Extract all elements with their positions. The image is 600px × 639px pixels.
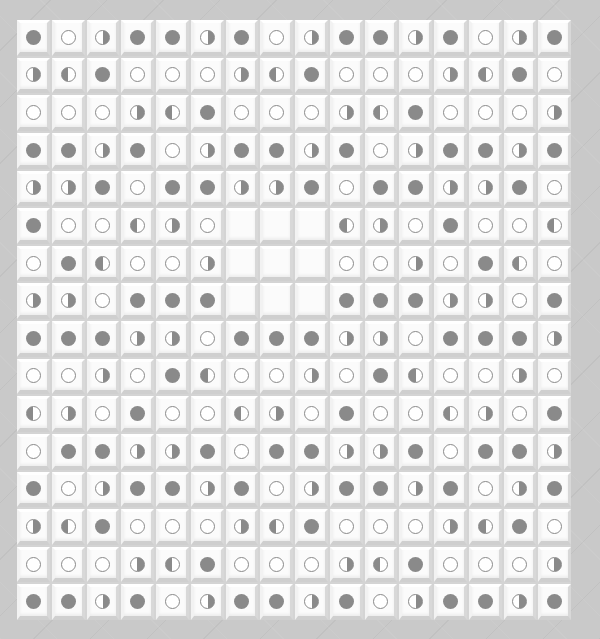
board-tile[interactable] — [156, 20, 189, 56]
board-tile[interactable] — [434, 509, 467, 545]
board-tile[interactable] — [295, 208, 328, 244]
board-tile[interactable] — [538, 472, 571, 508]
board-tile[interactable] — [87, 133, 120, 169]
board-tile[interactable] — [469, 171, 502, 207]
board-tile[interactable] — [330, 472, 363, 508]
board-tile[interactable] — [17, 95, 50, 131]
board-tile[interactable] — [330, 208, 363, 244]
board-tile[interactable] — [469, 246, 502, 282]
board-tile[interactable] — [538, 359, 571, 395]
board-tile[interactable] — [295, 396, 328, 432]
board-tile[interactable] — [295, 509, 328, 545]
board-tile[interactable] — [121, 283, 154, 319]
board-tile[interactable] — [226, 283, 259, 319]
board-tile[interactable] — [330, 171, 363, 207]
board-tile[interactable] — [156, 171, 189, 207]
board-tile[interactable] — [52, 58, 85, 94]
board-tile[interactable] — [226, 20, 259, 56]
board-tile[interactable] — [121, 208, 154, 244]
board-tile[interactable] — [365, 396, 398, 432]
board-tile[interactable] — [156, 133, 189, 169]
board-tile[interactable] — [434, 472, 467, 508]
board-tile[interactable] — [365, 321, 398, 357]
board-tile[interactable] — [191, 20, 224, 56]
board-tile[interactable] — [226, 584, 259, 620]
board-tile[interactable] — [156, 58, 189, 94]
board-tile[interactable] — [191, 246, 224, 282]
board-tile[interactable] — [226, 171, 259, 207]
board-tile[interactable] — [434, 283, 467, 319]
board-tile[interactable] — [365, 509, 398, 545]
board-tile[interactable] — [87, 283, 120, 319]
board-tile[interactable] — [87, 95, 120, 131]
board-tile[interactable] — [226, 359, 259, 395]
board-tile[interactable] — [260, 584, 293, 620]
board-tile[interactable] — [295, 283, 328, 319]
board-tile[interactable] — [156, 584, 189, 620]
board-tile[interactable] — [365, 472, 398, 508]
board-tile[interactable] — [295, 133, 328, 169]
board-tile[interactable] — [365, 359, 398, 395]
board-tile[interactable] — [469, 58, 502, 94]
board-tile[interactable] — [330, 547, 363, 583]
board-tile[interactable] — [469, 434, 502, 470]
board-tile[interactable] — [156, 283, 189, 319]
board-tile[interactable] — [504, 472, 537, 508]
board-tile[interactable] — [434, 95, 467, 131]
board-tile[interactable] — [121, 547, 154, 583]
board-tile[interactable] — [17, 547, 50, 583]
board-tile[interactable] — [156, 321, 189, 357]
board-tile[interactable] — [87, 321, 120, 357]
board-tile[interactable] — [399, 509, 432, 545]
board-tile[interactable] — [87, 20, 120, 56]
board-tile[interactable] — [469, 133, 502, 169]
board-tile[interactable] — [191, 359, 224, 395]
board-tile[interactable] — [156, 95, 189, 131]
board-tile[interactable] — [434, 246, 467, 282]
board-tile[interactable] — [260, 472, 293, 508]
board-tile[interactable] — [260, 434, 293, 470]
board-tile[interactable] — [538, 434, 571, 470]
board-tile[interactable] — [121, 359, 154, 395]
board-tile[interactable] — [226, 396, 259, 432]
board-tile[interactable] — [260, 171, 293, 207]
board-tile[interactable] — [504, 171, 537, 207]
board-tile[interactable] — [365, 547, 398, 583]
board-tile[interactable] — [156, 359, 189, 395]
board-tile[interactable] — [365, 58, 398, 94]
board-tile[interactable] — [399, 58, 432, 94]
board-tile[interactable] — [538, 171, 571, 207]
board-tile[interactable] — [121, 509, 154, 545]
board-tile[interactable] — [399, 20, 432, 56]
board-tile[interactable] — [399, 283, 432, 319]
board-tile[interactable] — [504, 396, 537, 432]
board-tile[interactable] — [260, 95, 293, 131]
board-tile[interactable] — [191, 95, 224, 131]
board-tile[interactable] — [469, 359, 502, 395]
board-tile[interactable] — [434, 58, 467, 94]
board-tile[interactable] — [226, 509, 259, 545]
board-tile[interactable] — [399, 434, 432, 470]
board-tile[interactable] — [434, 20, 467, 56]
board-tile[interactable] — [52, 208, 85, 244]
board-tile[interactable] — [87, 171, 120, 207]
board-tile[interactable] — [17, 171, 50, 207]
board-tile[interactable] — [504, 95, 537, 131]
board-tile[interactable] — [538, 58, 571, 94]
board-tile[interactable] — [295, 95, 328, 131]
board-tile[interactable] — [469, 95, 502, 131]
board-tile[interactable] — [226, 58, 259, 94]
board-tile[interactable] — [191, 434, 224, 470]
board-tile[interactable] — [121, 472, 154, 508]
board-tile[interactable] — [538, 283, 571, 319]
board-tile[interactable] — [17, 472, 50, 508]
board-tile[interactable] — [399, 547, 432, 583]
board-tile[interactable] — [156, 547, 189, 583]
board-tile[interactable] — [504, 547, 537, 583]
board-tile[interactable] — [156, 472, 189, 508]
board-tile[interactable] — [17, 283, 50, 319]
board-tile[interactable] — [260, 208, 293, 244]
board-tile[interactable] — [52, 584, 85, 620]
board-tile[interactable] — [504, 246, 537, 282]
board-tile[interactable] — [399, 171, 432, 207]
